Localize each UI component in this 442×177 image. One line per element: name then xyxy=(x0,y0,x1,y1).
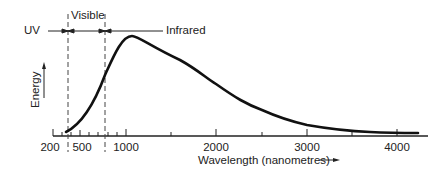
y-axis-label: Energy xyxy=(30,72,42,108)
tick-200: 200 xyxy=(40,142,59,154)
visible-label: Visible xyxy=(71,10,105,22)
infrared-label: Infrared xyxy=(166,25,206,37)
tick-3000: 3000 xyxy=(294,142,320,154)
uv-label: UV xyxy=(24,25,40,37)
x-axis-label: Wavelength (nanometres) xyxy=(198,155,330,167)
tick-4000: 4000 xyxy=(384,142,410,154)
tick-2000: 2000 xyxy=(203,142,229,154)
tick-1000: 1000 xyxy=(113,142,139,154)
tick-500: 500 xyxy=(72,142,91,154)
energy-curve xyxy=(66,36,418,133)
y-axis-arrow-icon xyxy=(42,62,46,98)
